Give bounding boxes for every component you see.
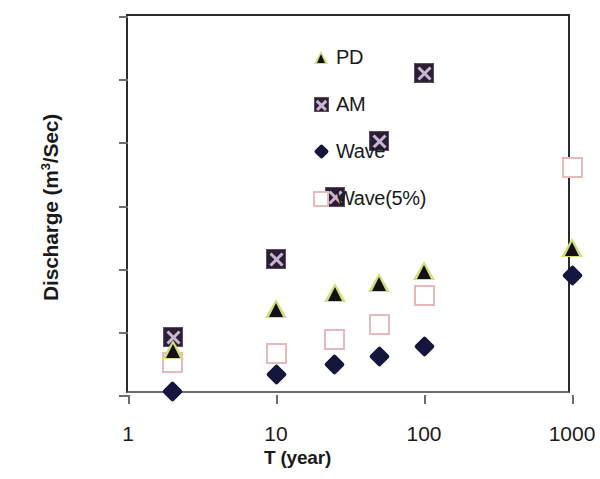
y-axis-title-post: /Sec) [39,114,62,163]
x-tick-mark [572,395,574,404]
data-point-pd [413,261,435,280]
legend-item-label: AM [336,93,365,116]
legend-item-label: Wave(5%) [336,187,426,210]
data-point-wave-5 [414,285,435,306]
legend-item-am[interactable]: AM [310,81,490,128]
data-point-pd [324,283,346,302]
x-axis-title: T (year) [0,447,595,469]
data-point-wave-5 [562,157,583,178]
x-tick-mark [276,395,278,404]
plot-area: 0100200300400500600 1101001000 PDAMWaveW… [126,14,570,393]
data-point-wave-5 [266,343,287,364]
x-tick-label: 1 [68,422,188,446]
data-point-wave-5 [369,314,390,335]
data-point-wave [369,346,390,367]
legend-marker-icon [310,188,332,210]
data-point-wave [265,364,286,385]
legend-item-label: PD [336,46,363,69]
legend-item-pd[interactable]: PD [310,34,490,81]
y-tick-mark [119,16,128,18]
x-tick-label: 100 [364,422,484,446]
x-tick-label: 10 [216,422,336,446]
legend-item-label: Wave [336,140,385,163]
y-tick-mark [119,206,128,208]
legend-item-wave-5[interactable]: Wave(5%) [310,175,490,222]
data-point-wave [324,354,345,375]
legend-marker-icon [310,94,332,116]
y-axis-title-exponent: 3 [38,163,53,170]
data-point-pd [265,299,287,318]
data-point-pd [368,273,390,292]
legend-marker-icon [310,47,332,69]
x-tick-label: 1000 [512,422,600,446]
y-tick-mark [119,332,128,334]
legend-marker-icon [310,141,332,163]
x-tick-mark [128,395,130,404]
chart-legend: PDAMWaveWave(5%) [310,34,490,222]
data-point-pd [162,340,184,359]
y-tick-mark [119,395,128,397]
legend-item-wave[interactable]: Wave [310,128,490,175]
y-tick-mark [119,142,128,144]
y-axis-title-pre: Discharge (m [39,170,62,301]
x-tick-mark [424,395,426,404]
y-tick-mark [119,269,128,271]
data-point-am [266,249,286,269]
y-axis-title: Discharge (m3/Sec) [38,8,63,408]
y-tick-mark [119,79,128,81]
data-point-wave-5 [324,329,345,350]
data-point-wave [413,336,434,357]
data-point-wave [162,381,183,402]
data-point-wave [561,265,582,286]
data-point-pd [561,238,583,257]
